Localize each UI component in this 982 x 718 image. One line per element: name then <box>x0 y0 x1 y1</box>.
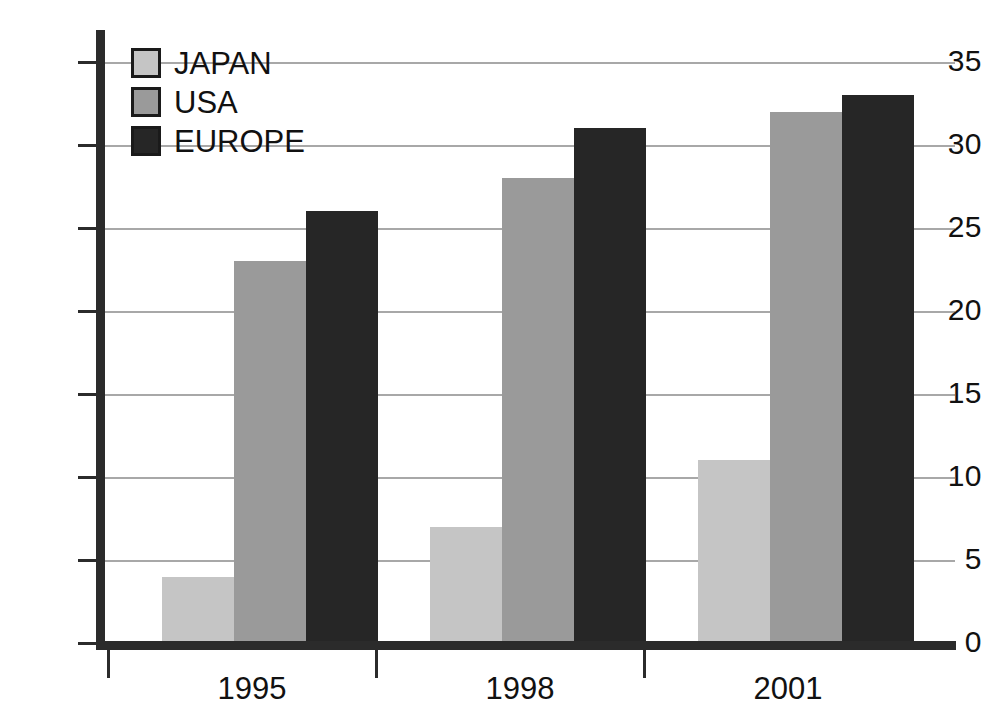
bar-chart: 05101520253035 199519982001 JAPAN USA EU… <box>0 0 982 718</box>
y-tick-label-30: 30 <box>926 129 982 159</box>
y-tick-5 <box>78 559 100 562</box>
y-axis-line <box>96 30 105 650</box>
y-tick-20 <box>78 310 100 313</box>
legend-item-europe[interactable]: EUROPE <box>131 122 305 160</box>
legend-swatch-europe <box>131 126 161 156</box>
y-tick-label-10: 10 <box>926 461 982 491</box>
x-tick-label-2001: 2001 <box>698 672 878 706</box>
legend-label-europe: EUROPE <box>174 126 305 157</box>
y-tick-label-20: 20 <box>926 295 982 325</box>
y-tick-25 <box>78 227 100 230</box>
legend-label-usa: USA <box>174 87 238 118</box>
legend-swatch-japan <box>131 48 161 78</box>
x-axis-line <box>96 641 956 650</box>
bar-japan-2001[interactable] <box>698 460 770 643</box>
y-tick-label-0: 0 <box>926 627 982 657</box>
chart-legend: JAPAN USA EUROPE <box>131 44 305 161</box>
bar-usa-2001[interactable] <box>770 112 842 643</box>
x-tick-label-1995: 1995 <box>162 672 342 706</box>
bar-usa-1998[interactable] <box>502 178 574 643</box>
x-tick-label-1998: 1998 <box>430 672 610 706</box>
x-tick-2001 <box>643 650 646 678</box>
y-tick-30 <box>78 144 100 147</box>
bar-europe-2001[interactable] <box>842 95 914 643</box>
legend-label-japan: JAPAN <box>174 48 272 79</box>
bar-japan-1998[interactable] <box>430 527 502 643</box>
y-tick-10 <box>78 476 100 479</box>
y-tick-label-5: 5 <box>926 544 982 574</box>
x-tick-1995 <box>107 650 110 678</box>
y-tick-0 <box>78 642 100 645</box>
y-tick-35 <box>78 61 100 64</box>
y-tick-15 <box>78 393 100 396</box>
y-tick-label-35: 35 <box>926 46 982 76</box>
bar-japan-1995[interactable] <box>162 577 234 643</box>
bar-europe-1995[interactable] <box>306 211 378 643</box>
bar-usa-1995[interactable] <box>234 261 306 643</box>
legend-item-usa[interactable]: USA <box>131 83 305 121</box>
legend-item-japan[interactable]: JAPAN <box>131 44 305 82</box>
y-tick-label-15: 15 <box>926 378 982 408</box>
legend-swatch-usa <box>131 87 161 117</box>
y-tick-label-25: 25 <box>926 212 982 242</box>
bar-europe-1998[interactable] <box>574 128 646 643</box>
x-tick-1998 <box>375 650 378 678</box>
